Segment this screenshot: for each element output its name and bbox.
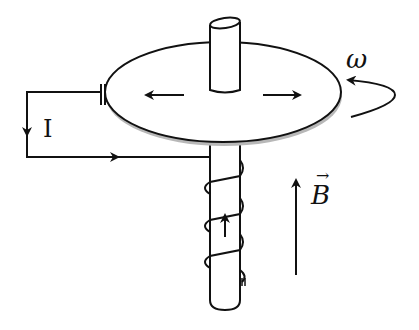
rotation-arrow bbox=[348, 80, 395, 117]
upper-shaft bbox=[209, 16, 240, 93]
faraday-disk-diagram: ω I B → bbox=[0, 0, 419, 330]
omega-label: ω bbox=[346, 44, 367, 74]
current-label: I bbox=[43, 115, 52, 143]
vector-arrow-mark: → bbox=[316, 166, 329, 185]
